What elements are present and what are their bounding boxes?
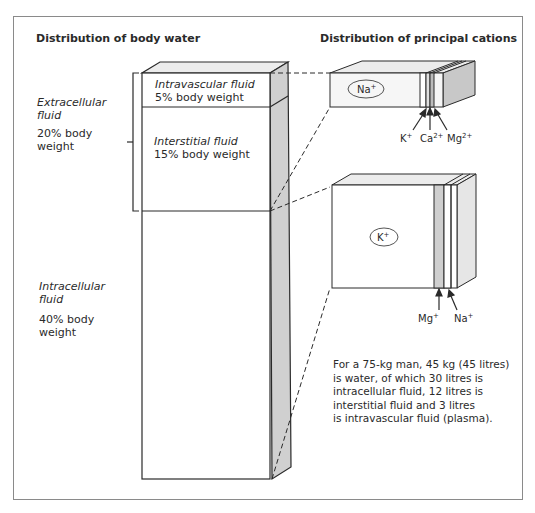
ecf-arrows bbox=[413, 108, 447, 130]
icf-main-cation: K+ bbox=[377, 231, 389, 244]
extracellular-value-1: 20% body bbox=[37, 127, 92, 140]
interstitial-label: Interstitial fluid bbox=[154, 135, 238, 148]
extracellular-label-1: Extracellular bbox=[37, 96, 106, 109]
diagram-graphics bbox=[0, 0, 535, 513]
icf-cation-mg: Mg+ bbox=[418, 312, 439, 325]
interstitial-value: 15% body weight bbox=[154, 148, 250, 161]
intravascular-label: Intravascular fluid bbox=[155, 78, 255, 91]
column-side-face bbox=[270, 62, 291, 479]
note-line: interstitial fluid and 3 litres bbox=[333, 399, 509, 413]
note-line: is intravascular fluid (plasma). bbox=[333, 412, 509, 426]
body-water-column bbox=[142, 62, 291, 479]
icf-cation-na: Na+ bbox=[454, 312, 473, 325]
ecf-cation-block bbox=[330, 61, 475, 107]
note-line: intracellular fluid, 12 litres is bbox=[333, 385, 509, 399]
icf-cation-block bbox=[332, 174, 476, 288]
intracellular-value-2: weight bbox=[39, 326, 76, 339]
ecf-main-cation: Na+ bbox=[357, 83, 376, 96]
right-title: Distribution of principal cations bbox=[320, 32, 517, 45]
intravascular-value: 5% body weight bbox=[155, 91, 244, 104]
intracellular-label-1: Intracellular bbox=[39, 280, 105, 293]
intracellular-value-1: 40% body bbox=[39, 313, 94, 326]
column-top-face bbox=[142, 62, 288, 73]
ecf-cation-ca: Ca2+ bbox=[420, 132, 443, 145]
extracellular-label-2: fluid bbox=[37, 109, 61, 122]
column-front-face bbox=[142, 73, 270, 479]
extracellular-value-2: weight bbox=[37, 140, 74, 153]
left-title: Distribution of body water bbox=[36, 32, 200, 45]
ecf-cation-k: K+ bbox=[400, 132, 412, 145]
intracellular-label-2: fluid bbox=[39, 293, 63, 306]
note-line: For a 75-kg man, 45 kg (45 litres) bbox=[333, 358, 509, 372]
note-line: is water, of which 30 litres is bbox=[333, 372, 509, 386]
explanatory-note: For a 75-kg man, 45 kg (45 litres) is wa… bbox=[333, 358, 509, 426]
icf-arrows bbox=[436, 289, 457, 310]
extracellular-bracket bbox=[127, 73, 139, 211]
ecf-cation-mg: Mg2+ bbox=[447, 132, 472, 145]
